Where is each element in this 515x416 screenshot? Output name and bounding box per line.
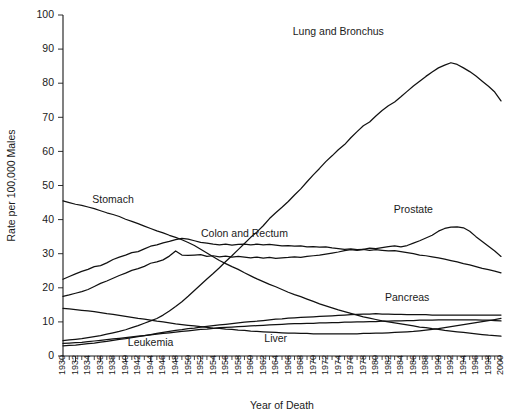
x-axis-title: Year of Death (250, 399, 314, 411)
x-axis-tick-label: 1960 (245, 355, 255, 375)
x-axis-tick-label: 1934 (82, 355, 92, 375)
x-axis-tick-label: 1938 (107, 355, 117, 375)
y-axis-tick-label: 40 (42, 213, 54, 225)
x-axis-tick-label: 1932 (70, 355, 80, 375)
y-axis-tick-label: 60 (42, 145, 54, 157)
series-label-liver: Liver (264, 332, 287, 344)
series-line-stomach (63, 201, 501, 336)
series-label-colon-and-rectum: Colon and Rectum (201, 227, 288, 239)
x-axis-tick-label: 1942 (132, 355, 142, 375)
x-axis-tick-label: 1992 (445, 355, 455, 375)
series-label-pancreas: Pancreas (385, 291, 429, 303)
series-line-liver (63, 308, 501, 334)
x-axis-tick-label: 1958 (233, 355, 243, 375)
y-axis-tick-label: 80 (42, 76, 54, 88)
x-axis-tick-label: 1988 (420, 355, 430, 375)
y-axis-tick-label: 50 (42, 179, 54, 191)
x-axis-tick-label: 1946 (157, 355, 167, 375)
x-axis-tick-label: 1936 (95, 355, 105, 375)
x-axis-tick-label: 2000 (495, 355, 505, 375)
x-axis-tick-label: 1950 (183, 355, 193, 375)
y-axis-tick-label: 20 (42, 281, 54, 293)
x-axis-tick-label: 1962 (258, 355, 268, 375)
x-axis-tick-label: 1994 (458, 355, 468, 375)
series-label-lung-and-bronchus: Lung and Bronchus (293, 25, 384, 37)
y-axis-tick-label: 0 (48, 349, 54, 361)
x-axis-tick-label: 1940 (120, 355, 130, 375)
x-axis-tick-label: 1930 (57, 355, 67, 375)
x-axis-tick-label: 1974 (333, 355, 343, 375)
series-line-colon-and-rectum (63, 238, 501, 279)
x-axis-tick-label: 1944 (145, 355, 155, 375)
x-axis-tick-label: 1954 (208, 355, 218, 375)
series-label-prostate: Prostate (394, 203, 433, 215)
x-axis-tick-label: 1956 (220, 355, 230, 375)
x-axis-tick-label: 1990 (433, 355, 443, 375)
y-axis-tick-label: 10 (42, 315, 54, 327)
y-axis-tick-label: 30 (42, 247, 54, 259)
x-axis-tick-label: 1964 (270, 355, 280, 375)
y-axis-tick-label: 70 (42, 111, 54, 123)
y-axis-title: Rate per 100,000 Males (5, 129, 17, 241)
x-axis-tick-label: 1996 (470, 355, 480, 375)
series-label-stomach: Stomach (92, 193, 134, 205)
cancer-mortality-line-chart: 0102030405060708090100193019321934193619… (0, 0, 515, 416)
x-axis-tick-label: 1986 (408, 355, 418, 375)
x-axis-tick-label: 1982 (383, 355, 393, 375)
x-axis-tick-label: 1968 (295, 355, 305, 375)
x-axis-tick-label: 1952 (195, 355, 205, 375)
x-axis-tick-label: 1948 (170, 355, 180, 375)
axis-lines (63, 15, 501, 356)
series-label-leukemia: Leukemia (128, 336, 174, 348)
x-axis-tick-label: 1966 (283, 355, 293, 375)
y-axis-tick-label: 100 (36, 8, 54, 20)
x-axis-tick-label: 1970 (308, 355, 318, 375)
x-axis-tick-label: 1972 (320, 355, 330, 375)
x-axis-tick-label: 1978 (358, 355, 368, 375)
chart-canvas: 0102030405060708090100193019321934193619… (0, 0, 515, 416)
x-axis-tick-label: 1984 (395, 355, 405, 375)
y-axis-tick-label: 90 (42, 42, 54, 54)
x-axis-tick-label: 1980 (370, 355, 380, 375)
x-axis-tick-label: 1976 (345, 355, 355, 375)
x-axis-tick-label: 1998 (483, 355, 493, 375)
